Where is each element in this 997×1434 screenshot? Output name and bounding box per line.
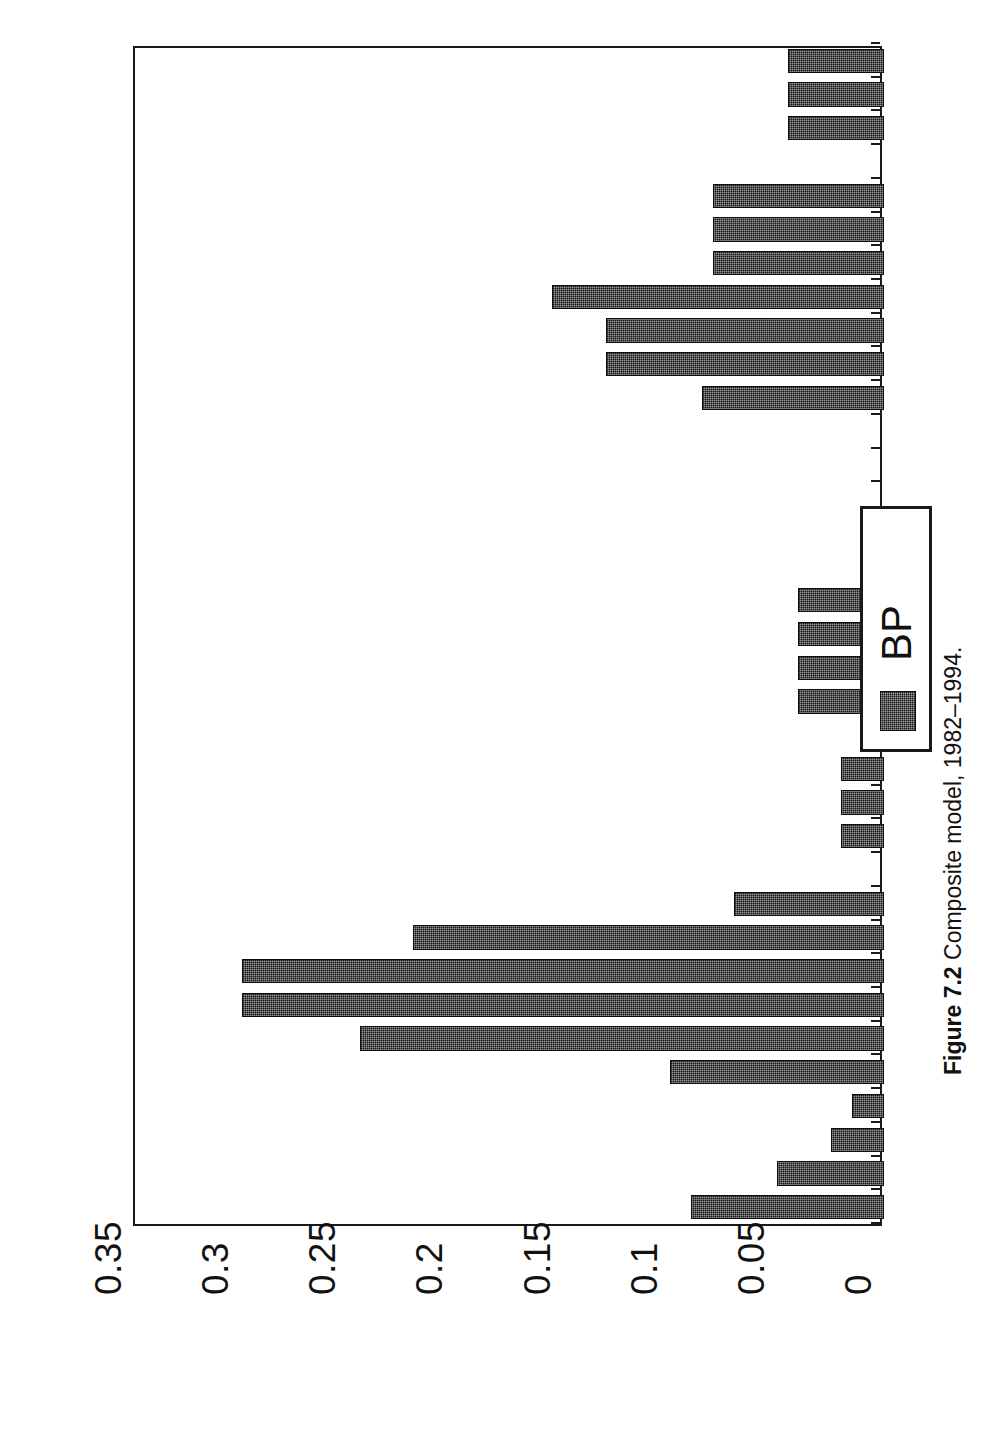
category-tick [871, 1121, 880, 1123]
category-tick [871, 447, 880, 449]
category-tick [871, 312, 880, 314]
category-tick [871, 244, 880, 246]
axis-tick-label: 0.15 [517, 1221, 559, 1295]
axis-tick-label: 0.35 [88, 1221, 130, 1295]
legend: BP [860, 506, 932, 752]
category-tick [871, 413, 880, 415]
figure-caption: Figure 7.2 Composite model, 1982–1994. [940, 647, 967, 1075]
bar [852, 1094, 884, 1118]
plot-area [133, 46, 882, 1226]
legend-swatch-bp [880, 691, 916, 731]
category-tick [871, 211, 880, 213]
category-tick [871, 42, 880, 44]
bar [670, 1060, 884, 1084]
bar [413, 925, 884, 949]
category-tick [871, 379, 880, 381]
bar [734, 892, 884, 916]
category-tick [871, 1087, 880, 1089]
bar [777, 1161, 884, 1185]
bar [841, 757, 884, 781]
bar [788, 49, 884, 73]
category-tick [871, 1188, 880, 1190]
caption-text: Composite model, 1982–1994. [940, 647, 966, 960]
axis-tick-label: 0.3 [195, 1242, 237, 1295]
category-tick [871, 784, 880, 786]
bar [606, 318, 884, 342]
axis-tick-label: 0.1 [624, 1242, 666, 1295]
category-tick [871, 817, 880, 819]
category-tick [871, 345, 880, 347]
bar [788, 82, 884, 106]
bar [606, 352, 884, 376]
category-tick [871, 76, 880, 78]
category-tick [871, 919, 880, 921]
bar [713, 217, 884, 241]
chart-stage [115, 122, 883, 1312]
bar [713, 251, 884, 275]
bar [841, 790, 884, 814]
bar [242, 959, 884, 983]
axis-tick-label: 0 [838, 1274, 880, 1295]
category-tick [871, 851, 880, 853]
category-tick [871, 143, 880, 145]
bar [242, 993, 884, 1017]
category-tick [871, 1020, 880, 1022]
bar [552, 285, 884, 309]
category-tick [871, 986, 880, 988]
bar [702, 386, 884, 410]
bar [841, 824, 884, 848]
category-tick [871, 109, 880, 111]
category-tick [871, 1053, 880, 1055]
category-tick [871, 1222, 880, 1224]
legend-label-bp: BP [873, 605, 921, 661]
bar [713, 184, 884, 208]
bar [831, 1128, 885, 1152]
category-tick [871, 885, 880, 887]
bars-layer [135, 44, 884, 1224]
category-tick [871, 952, 880, 954]
category-tick [871, 1155, 880, 1157]
category-tick [871, 177, 880, 179]
axis-tick-label: 0.25 [302, 1221, 344, 1295]
axis-tick-label: 0.05 [731, 1221, 773, 1295]
axis-tick-label: 0.2 [409, 1242, 451, 1295]
figure-root: 0.350.30.250.20.150.10.050 BP Figure 7.2… [0, 0, 997, 1434]
category-tick [871, 480, 880, 482]
caption-label: Figure 7.2 [940, 966, 966, 1075]
bar [691, 1195, 884, 1219]
bar [788, 116, 884, 140]
bar [360, 1026, 884, 1050]
category-tick [871, 278, 880, 280]
